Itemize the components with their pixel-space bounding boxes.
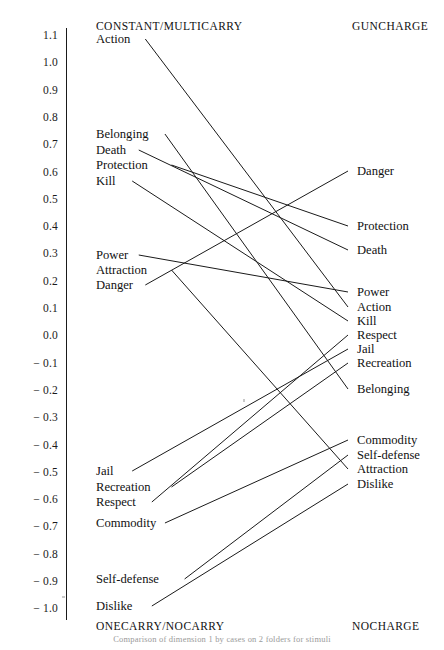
y-axis-tick-label: 0.9 bbox=[4, 85, 58, 97]
connector-line-danger bbox=[145, 171, 348, 285]
node-label-left: Power bbox=[96, 249, 128, 262]
scan-speck bbox=[62, 596, 65, 598]
connector-line-kill bbox=[132, 181, 348, 321]
y-axis-tick-label: 0.4 bbox=[4, 221, 58, 233]
node-label-right: Death bbox=[357, 244, 387, 257]
connector-line-jail bbox=[132, 349, 348, 471]
node-label-left: Commodity bbox=[96, 517, 156, 530]
connector-line-attraction bbox=[172, 270, 349, 469]
connector-line-respect bbox=[152, 335, 348, 502]
connector-line-self-defense bbox=[185, 455, 348, 579]
node-label-right: Danger bbox=[357, 165, 394, 178]
node-label-left: Action bbox=[96, 33, 130, 46]
node-label-left: Recreation bbox=[96, 481, 151, 494]
connector-line-commodity bbox=[165, 440, 348, 523]
figure-caption: Comparison of dimension 1 by cases on 2 … bbox=[0, 634, 444, 644]
y-axis-tick-label: 1.0 bbox=[4, 57, 58, 69]
y-axis-tick-label: − 0.5 bbox=[4, 467, 58, 479]
node-label-right: Dislike bbox=[357, 478, 393, 491]
y-axis-line bbox=[66, 28, 67, 620]
right-column-header-top: GUNCHARGE bbox=[352, 20, 428, 32]
left-column-header-bottom: ONECARRY/NOCARRY bbox=[96, 620, 225, 632]
connector-line-belonging bbox=[165, 134, 348, 389]
node-label-left: Dislike bbox=[96, 600, 132, 613]
node-label-right: Kill bbox=[357, 315, 377, 328]
connector-line-action bbox=[145, 39, 348, 307]
y-axis-tick-label: 0.1 bbox=[4, 303, 58, 315]
node-label-right: Self-defense bbox=[357, 449, 420, 462]
node-label-right: Commodity bbox=[357, 434, 417, 447]
y-axis-tick-label: − 0.8 bbox=[4, 549, 58, 561]
connector-line-death bbox=[139, 150, 348, 250]
slopegraph-plot: 1.11.00.90.80.70.60.50.40.30.20.10.0− 0.… bbox=[0, 0, 444, 650]
y-axis-tick-label: − 1.0 bbox=[4, 603, 58, 615]
y-axis-tick-label: 0.7 bbox=[4, 139, 58, 151]
node-label-left: Self-defense bbox=[96, 573, 159, 586]
node-label-right: Action bbox=[357, 301, 391, 314]
connector-line-power bbox=[139, 255, 348, 292]
node-label-left: Respect bbox=[96, 496, 136, 509]
node-label-left: Kill bbox=[96, 175, 116, 188]
y-axis-tick-label: − 0.1 bbox=[4, 358, 58, 370]
node-label-left: Protection bbox=[96, 159, 148, 172]
node-label-left: Attraction bbox=[96, 264, 147, 277]
y-axis-tick-label: − 0.9 bbox=[4, 576, 58, 588]
connector-line-dislike bbox=[152, 484, 348, 606]
y-axis-tick-label: − 0.3 bbox=[4, 412, 58, 424]
y-axis-tick-label: 0.0 bbox=[4, 330, 58, 342]
y-axis-tick-label: 0.3 bbox=[4, 248, 58, 260]
left-column-header-top: CONSTANT/MULTICARRY bbox=[96, 20, 243, 32]
y-axis-tick-label: 0.2 bbox=[4, 276, 58, 288]
node-label-left: Jail bbox=[96, 465, 114, 478]
node-label-right: Belonging bbox=[357, 383, 409, 396]
node-label-right: Jail bbox=[357, 343, 375, 356]
node-label-right: Recreation bbox=[357, 357, 412, 370]
y-axis-tick-label: 1.1 bbox=[4, 30, 58, 42]
connector-line-protection bbox=[172, 165, 349, 226]
node-label-right: Respect bbox=[357, 329, 397, 342]
y-axis-tick-label: − 0.4 bbox=[4, 440, 58, 452]
node-label-left: Danger bbox=[96, 279, 133, 292]
y-axis-tick-label: − 0.2 bbox=[4, 385, 58, 397]
y-axis-tick-label: − 0.6 bbox=[4, 494, 58, 506]
y-axis-tick-label: 0.8 bbox=[4, 112, 58, 124]
scan-speck bbox=[243, 399, 245, 402]
right-column-header-bottom: NOCHARGE bbox=[352, 620, 420, 632]
y-axis-tick-label: − 0.7 bbox=[4, 521, 58, 533]
connector-line-recreation bbox=[172, 363, 349, 487]
node-label-right: Protection bbox=[357, 220, 409, 233]
y-axis-tick-label: 0.6 bbox=[4, 167, 58, 179]
y-axis-tick-label: 0.5 bbox=[4, 194, 58, 206]
node-label-right: Power bbox=[357, 286, 389, 299]
node-label-left: Death bbox=[96, 144, 126, 157]
node-label-right: Attraction bbox=[357, 463, 408, 476]
node-label-left: Belonging bbox=[96, 128, 148, 141]
